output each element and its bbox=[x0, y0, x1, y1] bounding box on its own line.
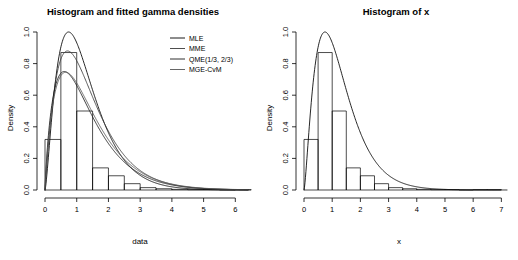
histogram-bar bbox=[360, 176, 374, 190]
x-tick-label: 1 bbox=[330, 205, 334, 214]
y-tick-label: 0.2 bbox=[22, 153, 31, 163]
y-tick-label: 0.0 bbox=[281, 185, 290, 195]
chart-title: Histogram and fitted gamma densities bbox=[47, 6, 219, 17]
y-tick-label: 0.8 bbox=[22, 58, 31, 68]
legend: MLEMMEQME(1/3, 2/3)MGE-CvM bbox=[170, 35, 233, 74]
x-tick-label: 3 bbox=[138, 205, 142, 214]
legend-label: MME bbox=[189, 45, 206, 52]
y-tick-label: 0.8 bbox=[281, 58, 290, 68]
density-curve bbox=[45, 72, 248, 190]
chart-panel-left: Histogram and fitted gamma densities Den… bbox=[0, 0, 259, 260]
x-tick-label: 4 bbox=[415, 205, 419, 214]
y-tick-label: 0.6 bbox=[22, 90, 31, 100]
axes-group: 012345670.00.20.40.60.81.0 bbox=[281, 27, 503, 214]
x-tick-label: 4 bbox=[170, 205, 174, 214]
chart-svg-left: Histogram and fitted gamma densities Den… bbox=[0, 0, 259, 260]
y-axis-label: Density bbox=[265, 105, 274, 132]
x-tick-label: 7 bbox=[499, 205, 503, 214]
histogram-bar bbox=[140, 188, 156, 190]
y-tick-label: 0.6 bbox=[281, 90, 290, 100]
x-tick-label: 1 bbox=[75, 205, 79, 214]
density-curve bbox=[45, 72, 248, 191]
x-tick-label: 3 bbox=[386, 205, 390, 214]
legend-label: MGE-CvM bbox=[189, 66, 222, 73]
y-tick-label: 0.4 bbox=[281, 122, 290, 132]
legend-label: QME(1/3, 2/3) bbox=[189, 56, 233, 64]
x-tick-label: 2 bbox=[358, 205, 362, 214]
x-axis-label: x bbox=[397, 237, 401, 246]
histogram-bar bbox=[108, 176, 124, 190]
y-tick-label: 1.0 bbox=[281, 27, 290, 37]
y-tick-label: 1.0 bbox=[22, 27, 31, 37]
legend-label: MLE bbox=[189, 35, 204, 42]
chart-title: Histogram of x bbox=[363, 6, 430, 17]
x-tick-label: 0 bbox=[302, 205, 306, 214]
x-tick-label: 2 bbox=[106, 205, 110, 214]
x-tick-label: 6 bbox=[233, 205, 237, 214]
figure-root: Histogram and fitted gamma densities Den… bbox=[0, 0, 518, 260]
histogram-bar bbox=[389, 188, 403, 190]
histogram-bar bbox=[346, 168, 360, 190]
chart-panel-right: Histogram of x Density x 012345670.00.20… bbox=[259, 0, 518, 260]
histogram-bars bbox=[304, 53, 501, 190]
histogram-bar bbox=[374, 184, 388, 190]
chart-svg-right: Histogram of x Density x 012345670.00.20… bbox=[259, 0, 518, 260]
y-axis-label: Density bbox=[6, 105, 15, 132]
histogram-bar bbox=[332, 111, 346, 190]
x-axis-label: data bbox=[132, 237, 148, 246]
histogram-bar bbox=[93, 168, 109, 190]
y-tick-label: 0.2 bbox=[281, 153, 290, 163]
histogram-bar bbox=[77, 111, 93, 190]
x-tick-label: 5 bbox=[202, 205, 206, 214]
x-tick-label: 6 bbox=[471, 205, 475, 214]
histogram-bar bbox=[318, 53, 332, 190]
y-tick-label: 0.4 bbox=[22, 122, 31, 132]
y-tick-label: 0.0 bbox=[22, 185, 31, 195]
histogram-bar bbox=[124, 184, 140, 190]
x-tick-label: 5 bbox=[443, 205, 447, 214]
x-tick-label: 0 bbox=[43, 205, 47, 214]
